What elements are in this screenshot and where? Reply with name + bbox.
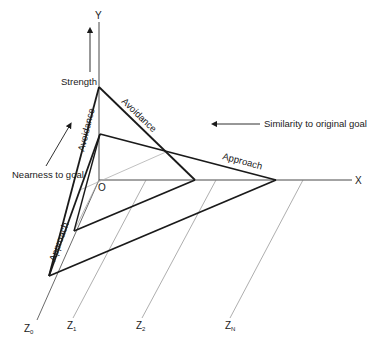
z0-label: Z0 [24,323,34,335]
avoidance-diagonal-label: Avoidance [120,96,159,135]
zn-line [230,180,303,318]
y-axis-label: Y [95,10,102,21]
z2-line [142,180,216,318]
avoidance-vertical-label: Avoidance [75,107,96,153]
x-axis-label: X [355,175,362,186]
avoidance-gradient-diagonal [99,87,195,180]
similarity-label: Similarity to original goal [264,118,367,129]
z1-line [73,180,146,318]
inner-base-line [74,180,195,231]
gray-projection-line [80,152,166,190]
approach-diagonal-label: Approach [47,221,71,263]
strength-label: Strength [61,76,97,87]
z1-label: Z1 [67,320,77,332]
zn-label: ZN [225,320,235,332]
origin-label: O [98,182,106,193]
gray-base-line [74,180,99,231]
z2-label: Z2 [136,320,146,332]
approach-avoidance-diagram: Y X O Z0 Z1 Z2 ZN Strength Nearness to g… [0,0,372,343]
nearness-label: Nearness to goal [12,169,84,180]
nearness-arrow [46,125,70,166]
